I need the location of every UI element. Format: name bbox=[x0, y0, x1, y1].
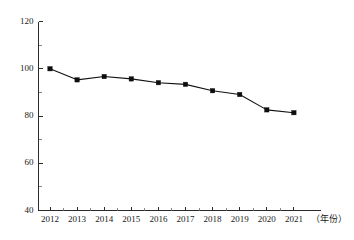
data-point-marker bbox=[265, 108, 269, 112]
x-tick-label: 2017 bbox=[177, 214, 196, 224]
x-tick-label: 2018 bbox=[204, 214, 223, 224]
x-tick-label: 2020 bbox=[258, 214, 277, 224]
data-point-marker bbox=[238, 92, 242, 96]
y-tick-label: 80 bbox=[25, 110, 35, 120]
y-tick-label: 120 bbox=[20, 16, 34, 26]
x-tick-label: 2012 bbox=[41, 214, 59, 224]
data-point-marker bbox=[129, 77, 133, 81]
chart-page: 406080100120 201220132014201520162017201… bbox=[0, 0, 354, 240]
series-markers bbox=[48, 67, 296, 115]
series-line bbox=[50, 69, 294, 113]
x-tick-label: 2015 bbox=[122, 214, 141, 224]
data-point-marker bbox=[156, 80, 160, 84]
x-tick-label: 2019 bbox=[231, 214, 250, 224]
line-chart: 406080100120 201220132014201520162017201… bbox=[0, 0, 354, 240]
data-point-marker bbox=[292, 110, 296, 114]
x-axis-tick-labels: 2012201320142015201620172018201920202021 bbox=[41, 214, 303, 224]
x-tick-label: 2021 bbox=[285, 214, 303, 224]
axis-spines bbox=[39, 22, 321, 211]
data-point-marker bbox=[183, 82, 187, 86]
axis-spine bbox=[39, 22, 321, 211]
y-tick-label: 60 bbox=[25, 157, 35, 167]
x-tick-label: 2016 bbox=[149, 214, 168, 224]
data-point-marker bbox=[48, 67, 52, 71]
data-series-layer bbox=[48, 67, 296, 115]
x-axis-ticks bbox=[50, 207, 294, 211]
y-axis-tick-labels: 406080100120 bbox=[20, 16, 34, 215]
x-tick-label: 2014 bbox=[95, 214, 114, 224]
data-point-marker bbox=[210, 89, 214, 93]
x-axis-caption: （年份） bbox=[311, 213, 347, 224]
data-point-marker bbox=[75, 78, 79, 82]
y-axis-ticks bbox=[39, 22, 43, 211]
data-point-marker bbox=[102, 74, 106, 78]
y-tick-label: 100 bbox=[20, 63, 34, 73]
x-tick-label: 2013 bbox=[68, 214, 87, 224]
y-tick-label: 40 bbox=[25, 205, 35, 215]
